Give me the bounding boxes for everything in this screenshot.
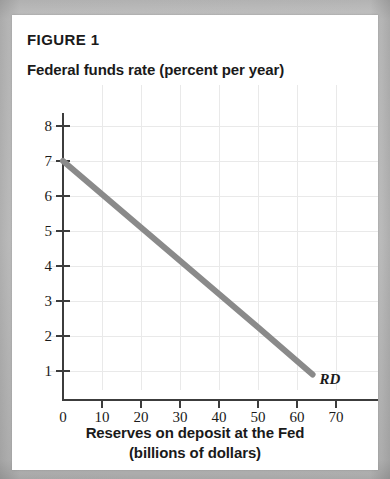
- x-axis-title-line2: (billions of dollars): [27, 443, 363, 463]
- x-axis-title-line1: Reserves on deposit at the Fed: [86, 424, 305, 441]
- x-axis-title: Reserves on deposit at the Fed (billions…: [27, 423, 363, 463]
- figure-title: FIGURE 1: [27, 31, 99, 48]
- y-axis-title: Federal funds rate (percent per year): [27, 61, 284, 78]
- reserve-demand-curve: [27, 85, 378, 400]
- figure-card: FIGURE 1 Federal funds rate (percent per…: [12, 15, 378, 470]
- plot-area: 12345678 010203040506070 RD: [27, 85, 378, 400]
- rd-curve-label: RD: [320, 371, 341, 388]
